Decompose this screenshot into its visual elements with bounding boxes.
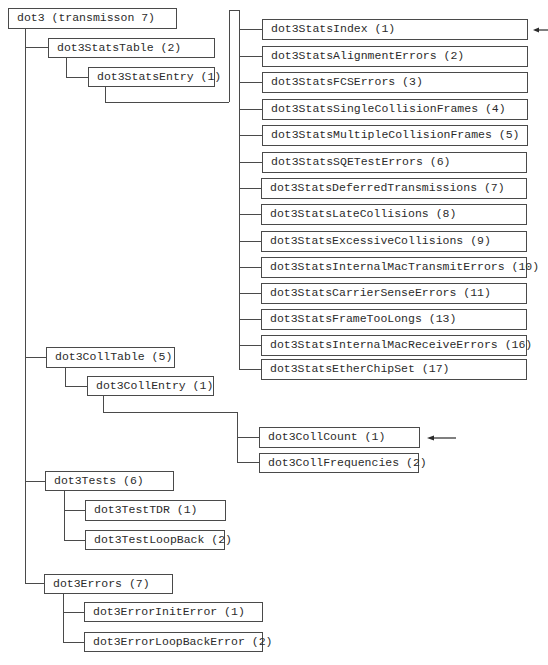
main-trunk-line bbox=[25, 29, 26, 583]
node-stats-internal-mac-receive-errors[interactable]: dot3StatsInternalMacReceiveErrors (16) bbox=[261, 335, 527, 356]
node-error-loopback-error[interactable]: dot3ErrorLoopBackError (2) bbox=[84, 632, 263, 652]
connector-coll-table bbox=[25, 357, 46, 358]
node-stats-multiple-collision-frames[interactable]: dot3StatsMultipleCollisionFrames (5) bbox=[262, 125, 528, 146]
node-stats-internal-mac-transmit-errors[interactable]: dot3StatsInternalMacTransmitErrors (10) bbox=[261, 257, 527, 278]
tests-trunk-line bbox=[64, 490, 65, 540]
connector-stats-col-6 bbox=[239, 162, 262, 163]
connector-stats-col-13 bbox=[239, 345, 262, 346]
connector-stats-entry bbox=[66, 77, 88, 78]
connector-coll-entry bbox=[65, 386, 87, 387]
connector-stats-col-2 bbox=[239, 56, 262, 57]
node-coll-count[interactable]: dot3CollCount (1) bbox=[259, 427, 420, 448]
left-arrow-icon bbox=[533, 25, 548, 35]
stats-columns-trunk-line bbox=[239, 10, 240, 369]
stats-entry-top-line bbox=[229, 10, 239, 11]
node-stats-table[interactable]: dot3StatsTable (2) bbox=[48, 38, 215, 58]
node-stats-single-collision-frames[interactable]: dot3StatsSingleCollisionFrames (4) bbox=[262, 99, 528, 120]
node-stats-ether-chip-set[interactable]: dot3StatsEtherChipSet (17) bbox=[261, 359, 527, 380]
connector-stats-col-10 bbox=[239, 267, 262, 268]
connector-test-tdr bbox=[64, 510, 85, 511]
node-stats-excessive-collisions[interactable]: dot3StatsExcessiveCollisions (9) bbox=[261, 231, 527, 252]
node-stats-carrier-sense-errors[interactable]: dot3StatsCarrierSenseErrors (11) bbox=[261, 283, 527, 304]
coll-entry-route-line bbox=[103, 412, 237, 413]
connector-stats-col-8 bbox=[239, 214, 262, 215]
node-stats-index[interactable]: dot3StatsIndex (1) bbox=[262, 19, 528, 40]
connector-errors bbox=[25, 583, 44, 584]
node-stats-deferred-transmissions[interactable]: dot3StatsDeferredTransmissions (7) bbox=[261, 178, 527, 199]
errors-trunk-line bbox=[63, 593, 64, 642]
connector-tests bbox=[25, 481, 45, 482]
connector-coll-frequencies bbox=[237, 462, 259, 463]
node-tests[interactable]: dot3Tests (6) bbox=[45, 471, 174, 491]
connector-stats-col-11 bbox=[239, 293, 262, 294]
coll-table-drop-line bbox=[65, 367, 66, 386]
node-stats-alignment-errors[interactable]: dot3StatsAlignmentErrors (2) bbox=[262, 46, 528, 67]
node-test-tdr[interactable]: dot3TestTDR (1) bbox=[85, 500, 226, 521]
node-coll-frequencies[interactable]: dot3CollFrequencies (2) bbox=[259, 453, 419, 473]
connector-stats-col-14 bbox=[239, 369, 262, 370]
node-stats-entry[interactable]: dot3StatsEntry (1) bbox=[88, 67, 215, 87]
stats-entry-drop-line bbox=[105, 86, 106, 102]
connector-error-loopback bbox=[63, 642, 84, 643]
coll-entry-drop-line bbox=[103, 395, 104, 412]
connector-stats-col-3 bbox=[239, 82, 262, 83]
node-coll-entry[interactable]: dot3CollEntry (1) bbox=[87, 376, 214, 396]
left-arrow-icon bbox=[427, 433, 457, 443]
node-test-loopback[interactable]: dot3TestLoopBack (2) bbox=[85, 530, 225, 550]
connector-stats-col-4 bbox=[239, 109, 262, 110]
node-stats-fcs-errors[interactable]: dot3StatsFCSErrors (3) bbox=[262, 72, 528, 93]
connector-stats-table bbox=[25, 47, 48, 48]
connector-stats-col-1 bbox=[239, 29, 262, 30]
node-stats-sqe-test-errors[interactable]: dot3StatsSQETestErrors (6) bbox=[262, 152, 527, 173]
connector-stats-col-9 bbox=[239, 241, 262, 242]
node-stats-frame-too-longs[interactable]: dot3StatsFrameTooLongs (13) bbox=[261, 309, 527, 330]
node-stats-late-collisions[interactable]: dot3StatsLateCollisions (8) bbox=[261, 204, 527, 225]
mib-tree-diagram: dot3 (transmisson 7) dot3StatsTable (2) … bbox=[0, 0, 548, 665]
connector-stats-col-7 bbox=[239, 188, 262, 189]
connector-coll-count bbox=[237, 437, 259, 438]
stats-entry-rise-line bbox=[229, 10, 230, 102]
node-error-init-error[interactable]: dot3ErrorInitError (1) bbox=[84, 602, 263, 622]
stats-table-drop-line bbox=[66, 57, 67, 77]
node-dot3-root[interactable]: dot3 (transmisson 7) bbox=[8, 8, 177, 29]
connector-test-loopback bbox=[64, 540, 85, 541]
connector-error-init bbox=[63, 612, 84, 613]
node-coll-table[interactable]: dot3CollTable (5) bbox=[46, 347, 175, 368]
node-errors[interactable]: dot3Errors (7) bbox=[44, 574, 173, 594]
connector-stats-col-12 bbox=[239, 319, 262, 320]
connector-stats-col-5 bbox=[239, 135, 262, 136]
stats-entry-route-line bbox=[105, 102, 229, 103]
